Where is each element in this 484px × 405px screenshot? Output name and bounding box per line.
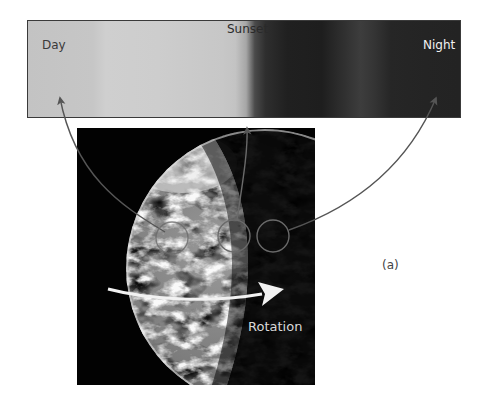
night-label: Night <box>423 38 455 52</box>
rotation-label: Rotation <box>248 319 302 334</box>
earth-globe-icon <box>77 128 315 385</box>
day-label: Day <box>42 38 66 52</box>
sunset-label: Sunset <box>227 22 268 36</box>
panel-label: (a) <box>382 258 399 272</box>
earth-photo: Rotation <box>77 128 315 385</box>
sky-brightness-bar: Day Sunset Night <box>27 20 461 118</box>
